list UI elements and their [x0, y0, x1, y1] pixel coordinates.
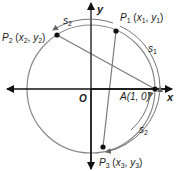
segment-p2-a [57, 35, 155, 89]
arc-s2-top-label: s2 [63, 15, 72, 27]
point-p1 [113, 28, 118, 33]
unit-circle-diagram: y x O A(1, 0) P1 (x1, y1) P2 (x2, y2) P3… [0, 0, 178, 171]
x-axis-label: x [166, 91, 174, 103]
point-a-label: A(1, 0) [119, 91, 150, 102]
point-p2-label: P2 (x2, y2) [2, 32, 45, 44]
origin-label: O [79, 93, 87, 104]
point-p1-label: P1 (x1, y1) [120, 12, 163, 24]
point-p2 [54, 32, 59, 37]
point-p3-label: P3 (x3, y3) [99, 157, 142, 169]
point-p3 [100, 144, 105, 149]
arc-s2-top-arrow [53, 19, 113, 30]
diagram-canvas: y x O A(1, 0) P1 (x1, y1) P2 (x2, y2) P3… [0, 0, 178, 171]
arc-s1-label: s1 [148, 43, 157, 55]
point-a [152, 86, 157, 91]
y-axis-label: y [96, 3, 104, 15]
